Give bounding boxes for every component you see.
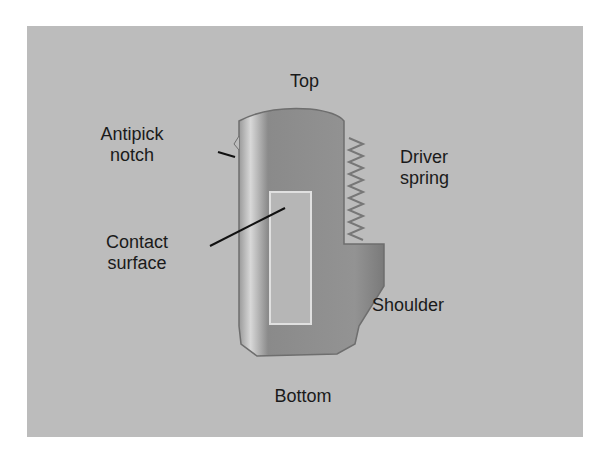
label-antipick-notch: Antipick notch — [87, 124, 177, 166]
label-bottom: Bottom — [263, 386, 343, 407]
antipick-leader-line — [218, 152, 235, 157]
driver-spring — [349, 138, 363, 240]
label-top: Top — [282, 71, 327, 92]
photo-panel: Top Antipick notch Driver spring Contact… — [27, 26, 583, 437]
label-contact-surface: Contact surface — [87, 232, 187, 274]
label-shoulder: Shoulder — [372, 295, 472, 316]
label-driver-spring: Driver spring — [400, 147, 480, 189]
